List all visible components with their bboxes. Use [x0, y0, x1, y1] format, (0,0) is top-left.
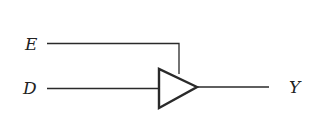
output-label: Y	[289, 77, 302, 97]
tristate-buffer-diagram: E D Y	[0, 0, 321, 124]
data-label: D	[22, 78, 37, 98]
buffer-triangle-icon	[159, 69, 197, 108]
enable-label: E	[24, 34, 38, 54]
